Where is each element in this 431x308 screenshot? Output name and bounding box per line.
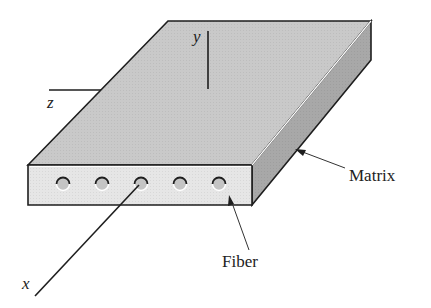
composite-lamina-diagram: z y x Matrix Fiber: [0, 0, 431, 308]
matrix-leader-line: [300, 151, 345, 168]
matrix-arrowhead: [295, 149, 306, 156]
matrix-label: Matrix: [349, 166, 396, 185]
y-axis-label: y: [191, 27, 201, 46]
x-axis-label: x: [21, 274, 30, 293]
z-axis-label: z: [46, 93, 54, 112]
fiber-label: Fiber: [222, 252, 258, 271]
fiber-leader-line: [231, 200, 249, 250]
